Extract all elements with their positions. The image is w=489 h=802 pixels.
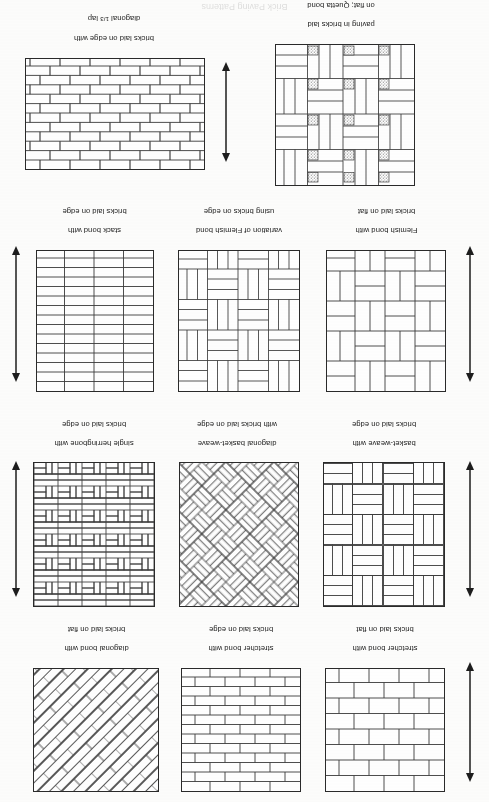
figure-flemish-bond: Flemish bond with bricks laid on flat	[319, 212, 454, 392]
scanned-plate: bricks laid on edge with diagonal 1/3 la…	[0, 0, 489, 802]
caption-line-2: bricks laid on flat	[356, 625, 414, 634]
caption-line-2: bricks laid on edge	[62, 207, 126, 216]
caption-diagonal-basketweave: diagonal basket-weave with bricks laid o…	[161, 420, 313, 457]
pattern-flemish-variation	[178, 250, 300, 392]
caption-line-2: bricks laid on edge	[352, 420, 416, 429]
pattern-basketweave	[323, 462, 445, 607]
pattern-stack-bond	[36, 250, 154, 392]
caption-basketweave: basket-weave with bricks laid on edge	[314, 420, 454, 457]
caption-line-1: stretcher bond with	[208, 644, 273, 653]
pattern-diagonal-third-lap	[25, 58, 205, 170]
figure-quetta-bond: paving in bricks laid on flat; Quetta bo…	[251, 6, 431, 186]
pattern-stretcher-on-flat	[325, 668, 445, 792]
direction-of-laying-arrow-row4	[463, 662, 477, 782]
figure-diagonal-third-lap: bricks laid on edge with diagonal 1/3 la…	[19, 10, 209, 170]
pattern-diagonal-basketweave	[179, 462, 299, 607]
direction-of-laying-arrow-row2-right	[9, 246, 23, 382]
figure-stretcher-on-flat: stretcher bond with bricks laid on flat	[315, 617, 455, 792]
caption-line-1: paving in bricks laid	[307, 20, 374, 29]
pattern-diagonal-bond	[33, 668, 159, 792]
figure-stretcher-on-edge: stretcher bond with bricks laid on edge	[171, 617, 311, 792]
caption-line-1: Flemish bond with	[355, 226, 417, 235]
figure-basketweave: basket-weave with bricks laid on edge	[314, 427, 454, 607]
caption-line-1: diagonal bond with	[64, 644, 128, 653]
caption-flemish-variation: variation of Flemish bond using bricks o…	[163, 207, 315, 244]
caption-stretcher-on-edge: stretcher bond with bricks laid on edge	[171, 625, 311, 662]
caption-flemish-bond: Flemish bond with bricks laid on flat	[319, 207, 454, 244]
direction-of-laying-arrow-row2-left	[463, 246, 477, 382]
caption-line-1: single herringbone with	[54, 439, 133, 448]
caption-stretcher-on-flat: stretcher bond with bricks laid on flat	[315, 625, 455, 662]
caption-diagonal-bond: diagonal bond with bricks laid on flat	[24, 625, 169, 662]
caption-line-1: diagonal basket-weave	[198, 439, 277, 448]
figure-diagonal-bond: diagonal bond with bricks laid on flat	[24, 617, 169, 792]
caption-line-2: bricks laid on edge	[62, 420, 126, 429]
caption-line-2: bricks laid on edge	[209, 625, 273, 634]
caption-line-2: using bricks on edge	[204, 207, 275, 216]
caption-line-2: with bricks laid on edge	[197, 420, 277, 429]
figure-single-herringbone: single herringbone with bricks laid on e…	[24, 427, 164, 607]
caption-stack-bond: stack bond with bricks laid on edge	[27, 207, 162, 244]
caption-line-1: stretcher bond with	[352, 644, 417, 653]
caption-line-2: diagonal 1/3 lap	[88, 14, 141, 23]
figure-stack-bond: stack bond with bricks laid on edge	[27, 212, 162, 392]
caption-quetta-bond: paving in bricks laid on flat; Quetta bo…	[251, 0, 431, 38]
caption-single-herringbone: single herringbone with bricks laid on e…	[20, 420, 168, 457]
direction-of-laying-arrow-row1	[219, 62, 233, 162]
direction-of-laying-arrow-row3-left	[463, 461, 477, 597]
pattern-single-herringbone	[33, 462, 155, 607]
caption-line-2: on flat; Quetta bond	[307, 1, 375, 10]
caption-line-1: basket-weave with	[352, 439, 415, 448]
figure-diagonal-basketweave: diagonal basket-weave with bricks laid o…	[167, 427, 307, 607]
figure-flemish-variation: variation of Flemish bond using bricks o…	[169, 212, 309, 392]
pattern-stretcher-on-edge	[181, 668, 301, 792]
pattern-flemish-bond	[326, 250, 446, 392]
caption-line-2: bricks laid on flat	[68, 625, 126, 634]
caption-diagonal-third-lap: bricks laid on edge with diagonal 1/3 la…	[19, 14, 209, 52]
direction-of-laying-arrow-row3-right	[9, 461, 23, 597]
caption-line-1: bricks laid on edge with	[74, 34, 154, 43]
caption-line-2: bricks laid on flat	[358, 207, 416, 216]
caption-line-1: variation of Flemish bond	[196, 226, 282, 235]
caption-line-1: stack bond with	[68, 226, 121, 235]
pattern-quetta-bond	[275, 44, 415, 186]
